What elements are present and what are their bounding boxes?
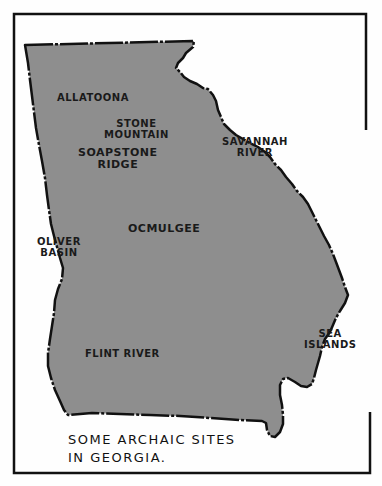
site-label-savannah-river: SAVANNAH RIVER	[222, 136, 288, 158]
site-label-flint-river: FLINT RIVER	[85, 348, 160, 359]
stone-mountain-line1: STONE	[104, 118, 169, 129]
soapstone-ridge-line2: RIDGE	[78, 159, 158, 171]
sea-islands-line1: SEA	[304, 328, 356, 339]
site-label-sea-islands: SEA ISLANDS	[304, 328, 356, 350]
stone-mountain-line2: MOUNTAIN	[104, 129, 169, 140]
savannah-river-line1: SAVANNAH	[222, 136, 288, 147]
site-label-stone-mountain: STONE MOUNTAIN	[104, 118, 169, 140]
oliver-basin-line1: OLIVER	[37, 236, 81, 247]
map-caption: SOME ARCHAIC SITES IN GEORGIA.	[68, 431, 236, 466]
oliver-basin-line2: BASIN	[37, 247, 81, 258]
caption-line2: IN GEORGIA.	[68, 449, 236, 467]
sea-islands-line2: ISLANDS	[304, 339, 356, 350]
site-label-oliver-basin: OLIVER BASIN	[37, 236, 81, 258]
map-figure: ALLATOONA STONE MOUNTAIN SOAPSTONE RIDGE…	[0, 0, 382, 486]
site-label-soapstone-ridge: SOAPSTONE RIDGE	[78, 147, 158, 171]
site-label-allatoona: ALLATOONA	[57, 92, 129, 103]
site-label-ocmulgee: OCMULGEE	[128, 223, 200, 235]
savannah-river-line2: RIVER	[222, 147, 288, 158]
caption-line1: SOME ARCHAIC SITES	[68, 431, 236, 449]
